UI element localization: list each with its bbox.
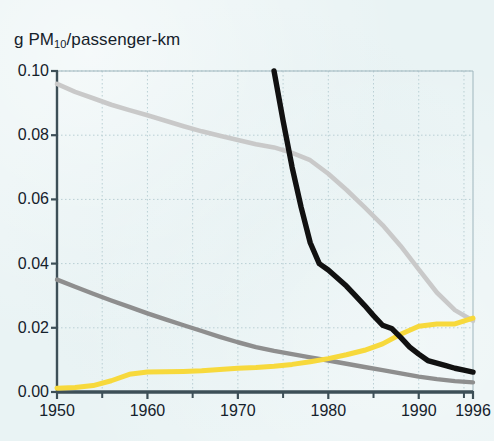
x-axis-tick-label: 1996 <box>447 402 494 420</box>
series-line-light-gray-series <box>57 84 473 321</box>
y-axis-tick-label: 0.08 <box>3 126 49 144</box>
chart-figure: g PM10/passenger-km 0.000.020.040.060.08… <box>0 0 494 441</box>
x-axis-tick-label: 1970 <box>212 402 264 420</box>
series-layer <box>57 71 473 388</box>
plot-area <box>0 0 494 441</box>
x-axis-tick-label: 1960 <box>121 402 173 420</box>
y-axis-tick-label: 0.00 <box>3 383 49 401</box>
y-axis-tick-label: 0.10 <box>3 62 49 80</box>
y-axis-tick-label: 0.06 <box>3 190 49 208</box>
x-axis-tick-label: 1990 <box>393 402 445 420</box>
y-axis-tick-label: 0.04 <box>3 255 49 273</box>
x-axis-tick-label: 1950 <box>31 402 83 420</box>
series-line-yellow-series <box>57 318 473 388</box>
y-axis-tick-label: 0.02 <box>3 319 49 337</box>
grid-layer <box>57 71 473 392</box>
x-axis-tick-label: 1980 <box>302 402 354 420</box>
